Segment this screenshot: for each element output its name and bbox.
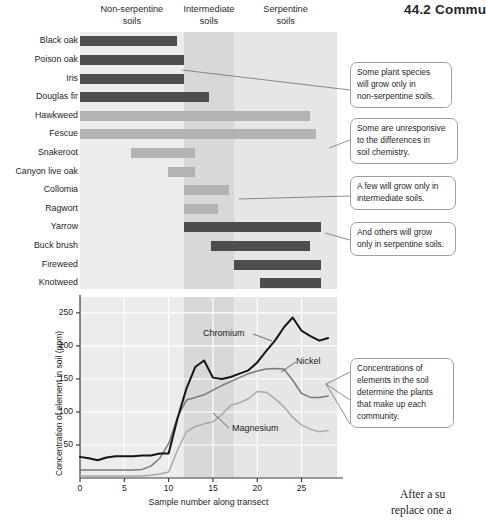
x-axis-title: Sample number along transect: [60, 497, 357, 507]
callout-leader-1: [329, 140, 350, 148]
callout-c3-line-0: A few will grow only in: [357, 181, 449, 193]
callout-c5: Concentrations ofelements in the soildet…: [350, 358, 454, 428]
x-tick-label-25: 25: [292, 483, 312, 493]
series-label-chromium: Chromium: [203, 328, 245, 338]
callout-leader-0: [182, 70, 350, 90]
callout-c4-line-0: And others will grow: [357, 227, 449, 239]
y-tick-label-250: 250: [47, 307, 73, 317]
callout-c1: Some plant specieswill grow only innon-s…: [350, 62, 452, 108]
callout-c5-line-2: determine the plants: [357, 387, 447, 399]
callout-c1-line-0: Some plant species: [357, 67, 445, 79]
callout-c1-line-2: non-serpentine soils.: [357, 91, 445, 103]
callout-c2-line-1: to the differences in: [357, 135, 451, 147]
callout-c2: Some are unresponsiveto the differences …: [350, 118, 458, 164]
x-tick-label-5: 5: [114, 483, 134, 493]
line-zone-band-intermediate: [184, 297, 235, 478]
y-axis-title: Concentration of element in soil (ppm): [54, 331, 64, 476]
callout-c5-line-0: Concentrations of: [357, 363, 447, 375]
page-footer-line1: After a su: [400, 487, 452, 503]
callout-c2-line-2: soil chemistry.: [357, 147, 451, 159]
callout-c4: And others will growonly in serpentine s…: [350, 222, 456, 256]
callout-c5-line-4: community.: [357, 411, 447, 423]
callout-c4-line-1: only in serpentine soils.: [357, 239, 449, 251]
callout-c1-line-1: will grow only in: [357, 79, 445, 91]
callout-c2-line-0: Some are unresponsive: [357, 123, 451, 135]
page-header: 44.2 Commu: [404, 2, 486, 17]
callout-c3: A few will grow only inintermediate soil…: [350, 176, 456, 210]
callout-c5-line-1: elements in the soil: [357, 375, 447, 387]
x-tick-label-10: 10: [159, 483, 179, 493]
series-label-magnesium: Magnesium: [232, 423, 279, 433]
callout-leader-2: [239, 196, 350, 199]
callout-c5-line-3: that make up each: [357, 399, 447, 411]
series-label-nickel: Nickel: [296, 356, 321, 366]
callout-leader-3: [325, 233, 350, 240]
x-tick-label-0: 0: [70, 483, 90, 493]
page-footer-line2: replace one a: [391, 503, 452, 519]
callout-c3-line-1: intermediate soils.: [357, 193, 449, 205]
x-tick-label-20: 20: [247, 483, 267, 493]
page-footer: After a sureplace one a: [400, 487, 452, 518]
x-tick-label-15: 15: [203, 483, 223, 493]
